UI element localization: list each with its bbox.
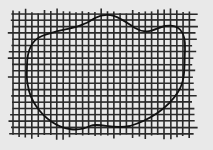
square-grid — [8, 8, 198, 139]
diagram-canvas — [0, 0, 213, 150]
grid-diagram — [0, 0, 213, 150]
